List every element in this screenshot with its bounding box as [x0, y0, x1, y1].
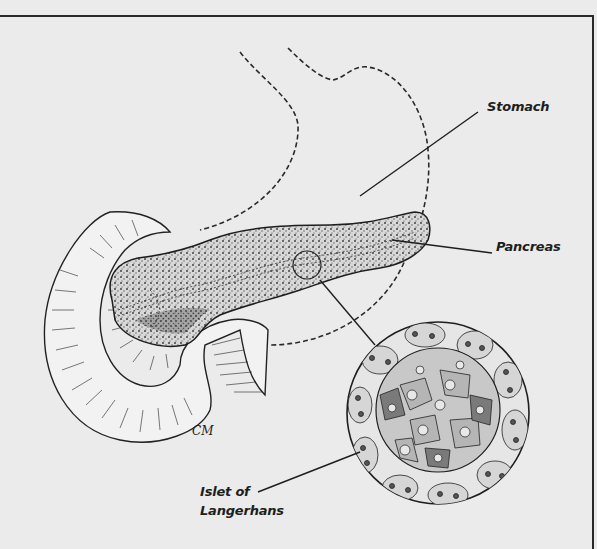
- stomach-leader-line: [360, 112, 478, 196]
- pancreas-label: Pancreas: [496, 239, 561, 255]
- pancreas-figure: CM: [0, 0, 597, 549]
- islet-label-line2: Langerhans: [200, 503, 284, 519]
- artist-signature: CM: [192, 424, 214, 438]
- islet-magnified-inset: [347, 322, 529, 507]
- islet-label: Islet of Langerhans: [200, 484, 284, 519]
- islet-label-line1: Islet of: [200, 484, 284, 500]
- anatomy-illustration: CM: [0, 0, 597, 549]
- stomach-label: Stomach: [487, 99, 549, 115]
- islet-connector-line: [320, 280, 375, 345]
